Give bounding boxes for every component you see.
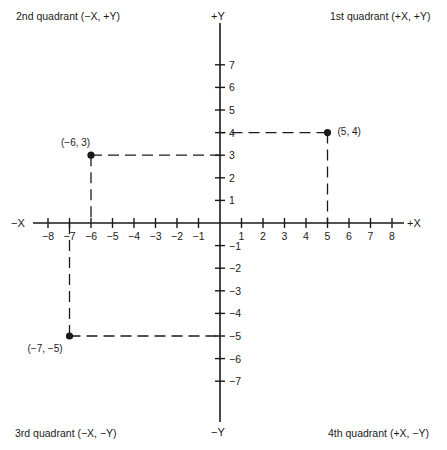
x-tick-label: 3 [282, 230, 288, 242]
x-tick-label: −8 [42, 230, 54, 242]
x-tick-label: −3 [150, 230, 162, 242]
y-tick-label: −2 [229, 262, 241, 274]
x-tick-label: 8 [389, 230, 395, 242]
y-tick-label: 7 [229, 59, 235, 71]
point-label: (−6, 3) [61, 137, 90, 148]
point-label: (5, 4) [338, 126, 361, 137]
y-tick-label: 1 [229, 194, 235, 206]
point-marker [324, 129, 331, 136]
x-tick-label: −6 [85, 230, 97, 242]
neg-x-label: −X [11, 217, 25, 229]
x-tick-label: −4 [128, 230, 140, 242]
pos-y-label: +Y [211, 10, 225, 22]
pos-x-label: +X [407, 217, 421, 229]
point-marker [87, 152, 94, 159]
x-tick-label: −5 [107, 230, 119, 242]
y-tick-label: −1 [229, 240, 241, 252]
y-tick-label: −3 [229, 285, 241, 297]
x-tick-label: 4 [303, 230, 309, 242]
y-tick-label: 2 [229, 172, 235, 184]
y-tick-label: −5 [229, 330, 241, 342]
point-marker [66, 332, 73, 339]
coordinate-plane: −X +X +Y −Y −8−7−6−5−4−3−2−1123456787654… [0, 0, 447, 450]
x-tick-label: 2 [260, 230, 266, 242]
x-tick-label: 5 [325, 230, 331, 242]
y-tick-label: 6 [229, 81, 235, 93]
x-tick-label: −1 [193, 230, 205, 242]
x-tick-label: 6 [346, 230, 352, 242]
x-tick-label: 7 [368, 230, 374, 242]
y-tick-label: 3 [229, 149, 235, 161]
x-tick-label: −2 [171, 230, 183, 242]
y-tick-label: −6 [229, 353, 241, 365]
point-label: (−7, −5) [28, 343, 63, 354]
y-tick-label: −4 [229, 307, 241, 319]
neg-y-label: −Y [211, 426, 225, 438]
y-tick-label: −7 [229, 375, 241, 387]
y-tick-label: 5 [229, 104, 235, 116]
